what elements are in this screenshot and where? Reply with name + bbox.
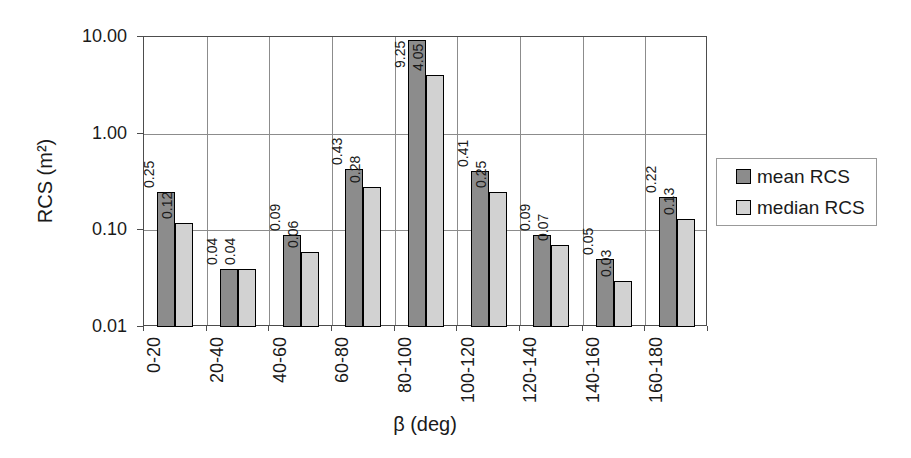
gridline-vertical <box>269 37 270 325</box>
x-tick-label: 160-180 <box>646 337 666 437</box>
bar-value-label: 0.06 <box>285 221 301 248</box>
bar-mean-rcs-160-180 <box>659 197 677 327</box>
bar-mean-rcs-100-120 <box>471 171 489 327</box>
x-tick-label: 40-60 <box>270 337 290 437</box>
gridline-vertical <box>520 37 521 325</box>
legend-item-median: median RCS <box>736 197 876 219</box>
bar-median-rcs-40-60 <box>301 252 319 327</box>
y-tick-label: 0.01 <box>57 316 127 336</box>
plot-area <box>143 36 707 326</box>
bar-mean-rcs-60-80 <box>345 169 363 327</box>
x-tick-mark <box>206 326 207 331</box>
bar-value-label: 0.12 <box>159 191 175 218</box>
x-tick-mark <box>707 326 708 331</box>
legend-label-mean: mean RCS <box>757 166 850 188</box>
bar-median-rcs-20-40 <box>238 269 256 327</box>
legend-swatch-mean <box>736 169 751 184</box>
bar-median-rcs-160-180 <box>677 219 695 327</box>
x-tick-label: 0-20 <box>144 337 164 437</box>
bar-value-label: 0.41 <box>455 140 471 167</box>
y-tick-mark <box>137 36 143 37</box>
bar-value-label: 0.09 <box>517 204 533 231</box>
bar-median-rcs-100-120 <box>489 192 507 327</box>
bar-value-label: 9.25 <box>392 41 408 68</box>
bar-value-label: 0.04 <box>204 238 220 265</box>
legend-item-mean: mean RCS <box>736 166 876 188</box>
bar-median-rcs-0-20 <box>175 223 193 327</box>
gridline-vertical <box>395 37 396 325</box>
x-tick-mark <box>582 326 583 331</box>
x-tick-mark <box>394 326 395 331</box>
bar-value-label: 0.13 <box>661 188 677 215</box>
x-tick-mark <box>331 326 332 331</box>
bar-value-label: 0.03 <box>598 250 614 277</box>
bar-median-rcs-80-100 <box>426 75 444 327</box>
bar-mean-rcs-80-100 <box>408 40 426 327</box>
x-tick-mark <box>143 326 144 331</box>
bar-mean-rcs-40-60 <box>283 235 301 327</box>
gridline-vertical <box>457 37 458 325</box>
y-tick-label: 0.10 <box>57 219 127 239</box>
bar-mean-rcs-120-140 <box>533 235 551 327</box>
gridline-vertical <box>583 37 584 325</box>
bar-median-rcs-140-160 <box>614 281 632 327</box>
bar-value-label: 0.25 <box>473 161 489 188</box>
x-tick-label: 80-100 <box>395 337 415 437</box>
bar-mean-rcs-20-40 <box>220 269 238 327</box>
x-tick-mark <box>268 326 269 331</box>
bar-value-label: 0.07 <box>535 214 551 241</box>
y-tick-label: 1.00 <box>57 123 127 143</box>
x-tick-label: 60-80 <box>332 337 352 437</box>
gridline-vertical <box>332 37 333 325</box>
legend-swatch-median <box>736 200 751 215</box>
y-axis-title: RCS (m²) <box>33 81 57 281</box>
y-tick-mark <box>137 229 143 230</box>
bar-value-label: 0.09 <box>267 204 283 231</box>
x-tick-label: 120-140 <box>520 337 540 437</box>
y-tick-label: 10.00 <box>57 26 127 46</box>
legend-label-median: median RCS <box>757 197 865 219</box>
gridline-vertical <box>207 37 208 325</box>
bar-value-label: 0.04 <box>222 238 238 265</box>
chart-canvas: RCS (m²) β (deg) mean RCS median RCS 10.… <box>0 0 911 458</box>
x-tick-mark <box>644 326 645 331</box>
x-tick-label: 100-120 <box>458 337 478 437</box>
bar-value-label: 0.28 <box>347 156 363 183</box>
y-tick-mark <box>137 133 143 134</box>
x-tick-mark <box>519 326 520 331</box>
legend: mean RCS median RCS <box>716 158 877 226</box>
bar-value-label: 4.05 <box>410 44 426 71</box>
bar-value-label: 0.22 <box>643 166 659 193</box>
bar-median-rcs-120-140 <box>551 245 569 327</box>
bar-value-label: 0.25 <box>141 161 157 188</box>
bar-value-label: 0.43 <box>329 138 345 165</box>
x-tick-mark <box>456 326 457 331</box>
bar-value-label: 0.05 <box>580 228 596 255</box>
bar-median-rcs-60-80 <box>363 187 381 327</box>
x-tick-label: 20-40 <box>207 337 227 437</box>
x-tick-label: 140-160 <box>583 337 603 437</box>
